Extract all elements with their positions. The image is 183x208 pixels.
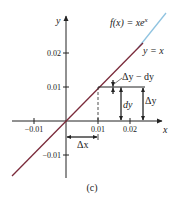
difference-leader [114, 78, 122, 84]
figure-caption: (c) [86, 182, 97, 194]
y-axis-label: y [55, 15, 61, 26]
x-tick-label: −0.01 [25, 125, 44, 134]
difference-label: Δy − dy [122, 71, 154, 82]
y-tick-label: 0.02 [47, 49, 61, 58]
dy-label: dy [123, 99, 133, 110]
y-tick-label: 0.01 [47, 83, 61, 92]
differential-diagram: −0.01 0.01 0.02 0.02 0.01 −0.01 x y f(x)… [0, 0, 183, 208]
y-tick-label: −0.01 [42, 151, 61, 160]
function-label: f(x) = xex [110, 16, 149, 29]
delta-y-label: Δy [145, 95, 156, 106]
tangent-label: y = x [142, 45, 164, 56]
x-axis-label: x [162, 124, 168, 135]
delta-x-label: Δx [77, 139, 88, 150]
x-tick-label: 0.02 [123, 125, 137, 134]
x-tick-label: 0.01 [91, 125, 105, 134]
